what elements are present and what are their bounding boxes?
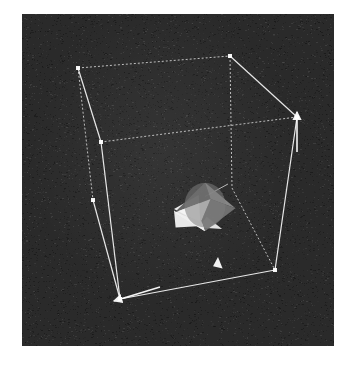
figure-root bbox=[0, 0, 356, 369]
axis-arrows-layer bbox=[22, 14, 334, 346]
render-viewport bbox=[22, 14, 334, 346]
